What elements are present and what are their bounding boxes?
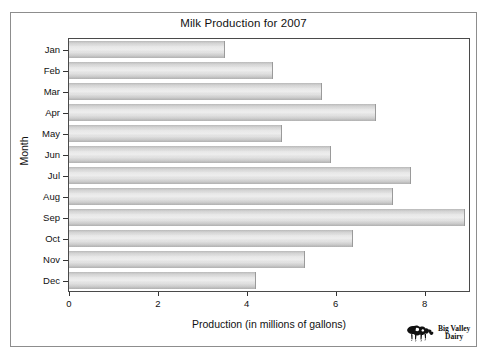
y-tick-mark: [63, 50, 68, 51]
x-tick-mark: [336, 292, 337, 296]
bar-row: [69, 249, 469, 270]
y-tick-label-oct: Oct: [18, 233, 60, 244]
bar-row: [69, 144, 469, 165]
bar-may[interactable]: [69, 125, 282, 142]
bar-jan[interactable]: [69, 41, 225, 58]
y-tick-mark: [63, 260, 68, 261]
bar-nov[interactable]: [69, 251, 305, 268]
y-tick-label-jan: Jan: [18, 44, 60, 55]
x-tick-mark: [158, 292, 159, 296]
y-tick-mark: [63, 155, 68, 156]
x-tick-mark: [425, 292, 426, 296]
bar-mar[interactable]: [69, 83, 322, 100]
bar-row: [69, 81, 469, 102]
bar-apr[interactable]: [69, 104, 376, 121]
x-tick-mark: [247, 292, 248, 296]
y-tick-mark: [63, 134, 68, 135]
x-tick-label-0: 0: [54, 298, 84, 309]
y-tick-label-sep: Sep: [18, 212, 60, 223]
bar-series: [69, 39, 469, 291]
bar-row: [69, 102, 469, 123]
bar-row: [69, 123, 469, 144]
y-tick-label-nov: Nov: [18, 254, 60, 265]
x-tick-label-6: 6: [321, 298, 351, 309]
bar-feb[interactable]: [69, 62, 273, 79]
y-tick-mark: [63, 113, 68, 114]
bar-jun[interactable]: [69, 146, 331, 163]
bar-row: [69, 165, 469, 186]
cow-icon: [405, 323, 435, 343]
bar-row: [69, 207, 469, 228]
x-tick-label-8: 8: [410, 298, 440, 309]
y-tick-label-feb: Feb: [18, 65, 60, 76]
y-tick-mark: [63, 92, 68, 93]
bar-row: [69, 39, 469, 60]
y-tick-mark: [63, 218, 68, 219]
bar-row: [69, 186, 469, 207]
logo-text: Big Valley Dairy: [438, 325, 470, 342]
y-tick-mark: [63, 176, 68, 177]
bar-dec[interactable]: [69, 272, 256, 289]
bar-row: [69, 60, 469, 81]
y-tick-mark: [63, 71, 68, 72]
y-tick-mark: [63, 239, 68, 240]
y-tick-label-dec: Dec: [18, 275, 60, 286]
plot-area: [68, 38, 470, 292]
logo-line-2: Dairy: [438, 333, 470, 342]
y-tick-mark: [63, 197, 68, 198]
y-tick-label-apr: Apr: [18, 107, 60, 118]
bar-row: [69, 270, 469, 291]
bar-sep[interactable]: [69, 209, 465, 226]
bar-row: [69, 228, 469, 249]
y-tick-label-aug: Aug: [18, 191, 60, 202]
y-axis-title: Month: [18, 121, 30, 181]
bar-jul[interactable]: [69, 167, 411, 184]
bar-oct[interactable]: [69, 230, 353, 247]
big-valley-dairy-logo: Big Valley Dairy: [405, 320, 477, 346]
x-tick-mark: [69, 292, 70, 296]
chart-figure: Milk Production for 2007 JanFebMarAprMay…: [0, 0, 487, 360]
y-tick-label-mar: Mar: [18, 86, 60, 97]
x-tick-label-2: 2: [143, 298, 173, 309]
chart-title: Milk Production for 2007: [10, 17, 477, 29]
y-tick-mark: [63, 281, 68, 282]
x-tick-label-4: 4: [232, 298, 262, 309]
bar-aug[interactable]: [69, 188, 393, 205]
